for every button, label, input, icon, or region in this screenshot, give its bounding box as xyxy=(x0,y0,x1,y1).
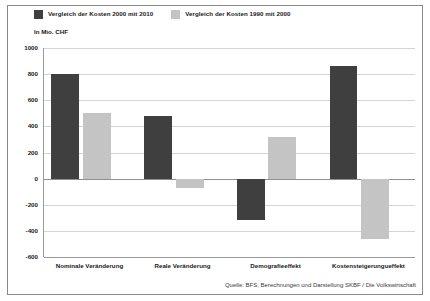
bar xyxy=(176,179,204,188)
y-tick-label-1000: 1000 xyxy=(24,45,38,51)
legend-item-series-0: Vergleich der Kosten 2000 mit 2010 xyxy=(34,10,153,19)
bar-group xyxy=(322,48,415,257)
source-note: Quelle: BFS; Berechnungen und Darstellun… xyxy=(225,282,416,288)
bar-group xyxy=(44,48,137,257)
x-tick-label: Demografieeffekt xyxy=(229,263,322,269)
x-axis-category-labels: Nominale VeränderungReale VeränderungDem… xyxy=(43,263,415,269)
bar-group xyxy=(137,48,230,257)
y-tick-label--600: -600 xyxy=(26,254,38,260)
y-tick-label-800: 800 xyxy=(28,71,38,77)
y-tick-label--200: -200 xyxy=(26,202,38,208)
bar xyxy=(144,116,172,179)
legend-label-series-1: Vergleich der Kosten 1990 mit 2000 xyxy=(185,11,290,17)
y-tick-label-600: 600 xyxy=(28,97,38,103)
y-axis-tick-labels: 10008006004002000-200-400-600 xyxy=(0,48,38,257)
bar-groups xyxy=(44,48,415,257)
chart-legend: Vergleich der Kosten 2000 mit 2010 Vergl… xyxy=(34,10,290,19)
legend-swatch-icon-series-0 xyxy=(34,10,43,19)
plot-area xyxy=(43,48,415,257)
chart-figure: Vergleich der Kosten 2000 mit 2010 Vergl… xyxy=(0,0,430,301)
y-axis-unit-label: In Mio. CHF xyxy=(34,29,68,35)
legend-label-series-0: Vergleich der Kosten 2000 mit 2010 xyxy=(48,11,153,17)
bar xyxy=(268,137,296,179)
bar xyxy=(330,66,358,178)
x-tick-label: Kostensteigerungueffekt xyxy=(322,263,415,269)
x-tick-label: Reale Veränderung xyxy=(136,263,229,269)
bar xyxy=(83,113,111,178)
bar xyxy=(51,74,79,179)
x-tick-label: Nominale Veränderung xyxy=(43,263,136,269)
y-tick-label-0: 0 xyxy=(35,176,38,182)
y-tick-label--400: -400 xyxy=(26,228,38,234)
bar xyxy=(237,179,265,221)
bar-group xyxy=(230,48,323,257)
y-tick-label-200: 200 xyxy=(28,149,38,155)
legend-swatch-icon-series-1 xyxy=(171,10,180,19)
y-tick-label-400: 400 xyxy=(28,123,38,129)
legend-item-series-1: Vergleich der Kosten 1990 mit 2000 xyxy=(171,10,290,19)
bar xyxy=(361,179,389,239)
gridline--600 xyxy=(44,257,415,258)
